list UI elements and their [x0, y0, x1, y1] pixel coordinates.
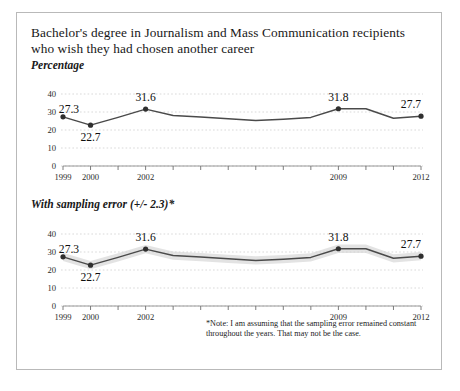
y-axis-tick-label: 10 [47, 143, 56, 153]
x-axis-tick-label: 2009 [330, 172, 347, 182]
chart-figure: Bachelor's degree in Journalism and Mass… [16, 12, 442, 370]
chart-panel-percentage: 0102030401999200020022009201227.322.731.… [27, 72, 431, 188]
chart-title: Bachelor's degree in Journalism and Mass… [31, 25, 431, 56]
data-point-label: 27.3 [59, 103, 79, 116]
y-axis-tick-label: 10 [47, 283, 56, 293]
data-point-label: 22.7 [80, 131, 100, 144]
chart-panel-sampling-error: 0102030401999200020022009201227.322.731.… [27, 212, 431, 328]
data-point-marker [336, 246, 341, 251]
data-point-marker [418, 114, 423, 119]
y-axis-tick-label: 0 [52, 161, 56, 171]
y-axis-tick-label: 40 [47, 229, 56, 239]
data-point-label: 31.6 [135, 231, 155, 244]
data-point-marker [143, 107, 148, 112]
panel2-subtitle: With sampling error (+/- 2.3)* [31, 198, 431, 210]
line-chart-percentage: 0102030401999200020022009201227.322.731.… [27, 72, 431, 188]
y-axis-tick-label: 0 [52, 301, 56, 311]
data-point-marker [336, 106, 341, 111]
y-axis-tick-label: 30 [47, 247, 56, 257]
x-axis-tick-label: 2000 [82, 172, 99, 182]
chart-footnote: *Note: I am assuming that the sampling e… [206, 319, 431, 339]
data-point-label: 31.6 [135, 91, 155, 104]
panel1-subtitle: Percentage [31, 59, 431, 71]
x-axis-tick-label: 1999 [54, 312, 71, 322]
data-point-marker [88, 263, 93, 268]
data-point-label: 27.3 [59, 243, 79, 256]
y-axis-tick-label: 20 [47, 125, 56, 135]
data-point-label: 27.7 [401, 98, 421, 111]
data-line [63, 109, 421, 125]
data-point-marker [88, 123, 93, 128]
data-point-label: 27.7 [401, 238, 421, 251]
x-axis-tick-label: 1999 [54, 172, 71, 182]
line-chart-sampling-error: 0102030401999200020022009201227.322.731.… [27, 212, 431, 328]
y-axis-tick-label: 40 [47, 89, 56, 99]
data-point-label: 31.8 [328, 91, 348, 104]
x-axis-tick-label: 2002 [137, 172, 154, 182]
y-axis-tick-label: 30 [47, 107, 56, 117]
error-band [63, 245, 421, 270]
x-axis-tick-label: 2012 [412, 172, 429, 182]
data-point-marker [143, 247, 148, 252]
data-point-marker [418, 254, 423, 259]
x-axis-tick-label: 2002 [137, 312, 154, 322]
x-axis-tick-label: 2000 [82, 312, 99, 322]
data-point-label: 31.8 [328, 231, 348, 244]
data-point-label: 22.7 [80, 271, 100, 284]
y-axis-tick-label: 20 [47, 265, 56, 275]
